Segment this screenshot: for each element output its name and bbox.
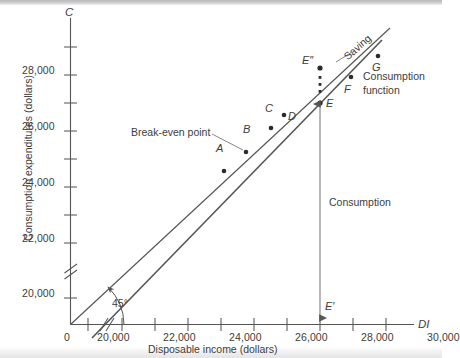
consumption-measure-label: Consumption [329,196,391,208]
point-B [244,150,249,155]
x-tick-label-30000: 30,000 [427,331,460,343]
point-label-D: D [288,110,296,122]
y-tick-label-20000: 20,000 [22,287,55,299]
x-tick-label-22000: 22,000 [163,331,196,343]
consumption-function-label-line1: Consumption [363,70,425,82]
x-tick-label-20000: 20,000 [97,331,130,343]
forty-five-degree-line [71,28,391,325]
point-E-double-prime [317,65,322,70]
point-label-A: A [216,142,223,154]
y-axis-variable: C [65,6,73,18]
saving-gap-dots [319,76,322,93]
point-label-E-prime: E′ [325,300,334,312]
point-label-E-double-prime: E″ [302,54,313,66]
point-A [222,169,227,174]
break-even-point-label: Break-even point [131,126,210,138]
point-D [282,113,287,118]
data-point-markers [222,54,381,174]
point-label-F: F [344,83,351,95]
x-tick-label-28000: 28,000 [361,331,394,343]
point-C [269,126,274,131]
x-axis-variable: DI [418,318,430,330]
axis-lines [71,18,415,325]
origin-zero-label: 0 [64,331,70,343]
point-label-E: E [326,97,333,109]
point-G [376,54,381,59]
consumption-function-label-line2: function [363,84,400,96]
point-label-B: B [243,123,250,135]
consumption-function-line [92,40,382,338]
point-label-C: C [265,102,273,114]
point-F [349,75,354,80]
x-tick-label-24000: 24,000 [229,331,262,343]
x-axis-title: Disposable income (dollars) [148,343,278,355]
x-tick-label-26000: 26,000 [295,331,328,343]
y-axis-title: Consumption expenditures (dollars) [22,68,34,248]
angle-label: 45° [112,297,128,309]
